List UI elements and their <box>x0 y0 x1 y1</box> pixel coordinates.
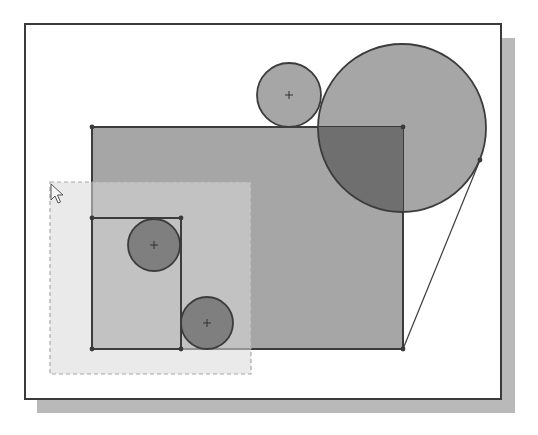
vertex-point[interactable] <box>90 125 95 130</box>
vertex-point[interactable] <box>179 216 184 221</box>
vertex-point[interactable] <box>401 347 406 352</box>
vertex-point[interactable] <box>90 347 95 352</box>
sketch-canvas[interactable] <box>0 0 538 435</box>
vertex-point[interactable] <box>90 216 95 221</box>
vertex-point[interactable] <box>478 158 483 163</box>
vertex-point[interactable] <box>179 347 184 352</box>
vertex-point[interactable] <box>401 125 406 130</box>
